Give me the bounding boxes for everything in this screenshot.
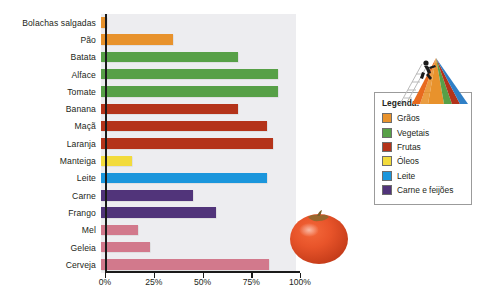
legend-item: Vegetais bbox=[382, 125, 471, 139]
legend-label: Frutas bbox=[397, 142, 421, 152]
x-axis-tick-label: 75% bbox=[243, 277, 260, 287]
category-label: Cerveja bbox=[0, 260, 101, 270]
bar bbox=[101, 52, 238, 62]
chart-row: Maçã bbox=[0, 118, 310, 135]
legend-label: Vegetais bbox=[397, 128, 429, 138]
x-axis-tick-label: 50% bbox=[194, 277, 211, 287]
bar bbox=[101, 207, 216, 217]
legend-item: Óleos bbox=[382, 154, 471, 168]
chart-row: Frango bbox=[0, 204, 310, 221]
bar bbox=[101, 242, 150, 252]
bar-track bbox=[101, 66, 296, 83]
chart-row: Banana bbox=[0, 100, 310, 117]
legend-swatch-icon bbox=[382, 156, 392, 166]
bar-track bbox=[101, 100, 296, 117]
x-axis-tick-labels: 0%25%50%75%100% bbox=[105, 277, 300, 291]
bar-track bbox=[101, 118, 296, 135]
legend-swatch-icon bbox=[382, 113, 392, 123]
chart-row: Manteiga bbox=[0, 152, 310, 169]
bar-track bbox=[101, 187, 296, 204]
category-label: Batata bbox=[0, 52, 101, 62]
bar bbox=[101, 173, 267, 183]
legend-item: Frutas bbox=[382, 140, 471, 154]
legend: Legenda: GrãosVegetaisFrutasÓleosLeiteCa… bbox=[374, 92, 472, 205]
legend-label: Leite bbox=[397, 171, 415, 181]
bar-track bbox=[101, 31, 296, 48]
category-label: Frango bbox=[0, 208, 101, 218]
bar bbox=[101, 104, 238, 114]
category-label: Mel bbox=[0, 225, 101, 235]
category-label: Bolachas salgadas bbox=[0, 18, 101, 28]
chart-row: Pão bbox=[0, 31, 310, 48]
category-label: Leite bbox=[0, 173, 101, 183]
chart-rows: Bolachas salgadasPãoBatataAlfaceTomateBa… bbox=[0, 14, 310, 273]
legend-swatch-icon bbox=[382, 142, 392, 152]
legend-items: GrãosVegetaisFrutasÓleosLeiteCarne e fei… bbox=[382, 111, 471, 197]
bar-track bbox=[101, 14, 296, 31]
legend-label: Grãos bbox=[397, 113, 420, 123]
bar-track bbox=[101, 239, 296, 256]
bar-chart: Bolachas salgadasPãoBatataAlfaceTomateBa… bbox=[0, 0, 487, 291]
chart-row: Mel bbox=[0, 222, 310, 239]
chart-row: Leite bbox=[0, 170, 310, 187]
category-label: Manteiga bbox=[0, 156, 101, 166]
chart-row: Batata bbox=[0, 49, 310, 66]
legend-swatch-icon bbox=[382, 171, 392, 181]
bar bbox=[101, 121, 267, 131]
category-label: Banana bbox=[0, 104, 101, 114]
category-label: Tomate bbox=[0, 87, 101, 97]
tomato-photo bbox=[288, 205, 350, 265]
category-label: Pão bbox=[0, 35, 101, 45]
legend-swatch-icon bbox=[382, 185, 392, 195]
bar bbox=[101, 190, 193, 200]
legend-label: Óleos bbox=[397, 156, 419, 166]
bar-track bbox=[101, 83, 296, 100]
chart-row: Carne bbox=[0, 187, 310, 204]
bar-track bbox=[101, 204, 296, 221]
x-axis-tick-label: 100% bbox=[289, 277, 311, 287]
legend-item: Carne e feijões bbox=[382, 183, 471, 197]
category-label: Maçã bbox=[0, 121, 101, 131]
chart-row: Laranja bbox=[0, 135, 310, 152]
bar-track bbox=[101, 170, 296, 187]
bar-track bbox=[101, 135, 296, 152]
bar-track bbox=[101, 222, 296, 239]
bar bbox=[101, 34, 173, 44]
x-axis-tick-label: 0% bbox=[99, 277, 111, 287]
y-axis-line bbox=[105, 14, 107, 272]
chart-row: Bolachas salgadas bbox=[0, 14, 310, 31]
food-pyramid-illustration bbox=[392, 56, 480, 106]
chart-row: Alface bbox=[0, 66, 310, 83]
chart-row: Tomate bbox=[0, 83, 310, 100]
category-label: Alface bbox=[0, 70, 101, 80]
bar bbox=[101, 138, 273, 148]
chart-row: Geleia bbox=[0, 239, 310, 256]
bar bbox=[101, 69, 278, 79]
legend-label: Carne e feijões bbox=[397, 185, 453, 195]
category-label: Geleia bbox=[0, 243, 101, 253]
x-axis-tick-label: 25% bbox=[145, 277, 162, 287]
legend-item: Grãos bbox=[382, 111, 471, 125]
bar bbox=[101, 86, 278, 96]
bar-track bbox=[101, 152, 296, 169]
category-label: Laranja bbox=[0, 139, 101, 149]
category-label: Carne bbox=[0, 191, 101, 201]
legend-swatch-icon bbox=[382, 128, 392, 138]
bar bbox=[101, 259, 269, 269]
legend-item: Leite bbox=[382, 169, 471, 183]
bar-track bbox=[101, 49, 296, 66]
